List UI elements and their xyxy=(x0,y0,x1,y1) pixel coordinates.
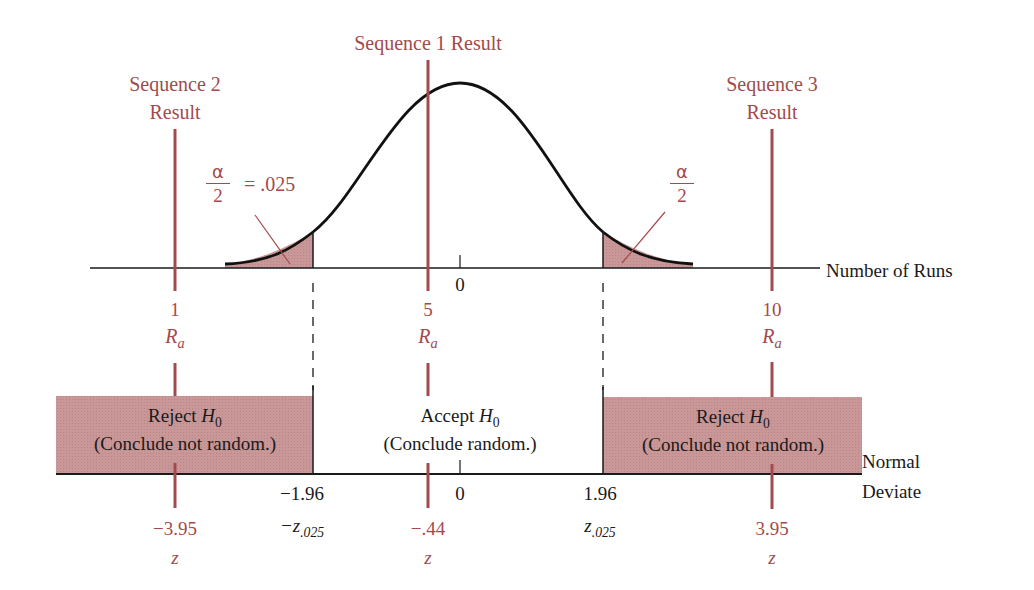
accept-note: (Conclude random.) xyxy=(383,434,536,453)
alpha-left-num: α xyxy=(208,163,228,181)
normal-axis-label-line2: Deviate xyxy=(862,482,921,501)
reject-left-note: (Conclude not random.) xyxy=(94,434,276,453)
seq1-z-value: −.44 xyxy=(411,519,445,538)
seq3-title-line2: Result xyxy=(746,102,797,122)
seq2-title-line2: Result xyxy=(149,102,200,122)
seq2-z-value: −3.95 xyxy=(153,519,197,538)
alpha-left-value: = .025 xyxy=(244,174,295,194)
seq3-z-value: 3.95 xyxy=(755,519,788,538)
seq1-runs-symbol: Ra xyxy=(418,326,437,346)
runs-zero-label: 0 xyxy=(455,275,465,294)
reject-right-note: (Conclude not random.) xyxy=(642,435,824,454)
seq2-runs-value: 1 xyxy=(170,300,180,319)
seq3-title-line1: Sequence 3 xyxy=(726,74,818,94)
fraction-bar xyxy=(670,183,694,184)
left-critical-value: −1.96 xyxy=(280,484,324,503)
seq3-runs-symbol: Ra xyxy=(762,326,781,346)
right-critical-value: 1.96 xyxy=(583,484,616,503)
seq3-runs-value: 10 xyxy=(763,300,782,319)
accept-title: Accept H0 xyxy=(420,406,499,425)
fraction-bar xyxy=(206,183,230,184)
right-critical-symbol: z.025 xyxy=(584,516,615,535)
seq2-z-symbol: z xyxy=(171,548,178,567)
alpha-left-den: 2 xyxy=(213,186,223,205)
normal-zero-label: 0 xyxy=(455,484,465,503)
reject-right-title: Reject H0 xyxy=(696,407,770,426)
seq2-runs-symbol: Ra xyxy=(165,326,184,346)
alpha-right-den: 2 xyxy=(677,186,687,205)
left-critical-symbol: −z.025 xyxy=(280,516,324,535)
seq1-z-symbol: z xyxy=(424,548,431,567)
seq1-title: Sequence 1 Result xyxy=(354,33,502,53)
runs-axis-label: Number of Runs xyxy=(826,261,953,280)
seq2-title-line1: Sequence 2 xyxy=(129,74,221,94)
alpha-right-num: α xyxy=(672,163,692,181)
normal-axis-label-line1: Normal xyxy=(862,452,920,471)
alpha-right-label: α 2 xyxy=(670,163,694,205)
seq3-z-symbol: z xyxy=(768,548,775,567)
seq1-runs-value: 5 xyxy=(423,300,433,319)
reject-left-title: Reject H0 xyxy=(148,406,222,425)
alpha-left-label: α 2 = .025 xyxy=(206,163,295,205)
